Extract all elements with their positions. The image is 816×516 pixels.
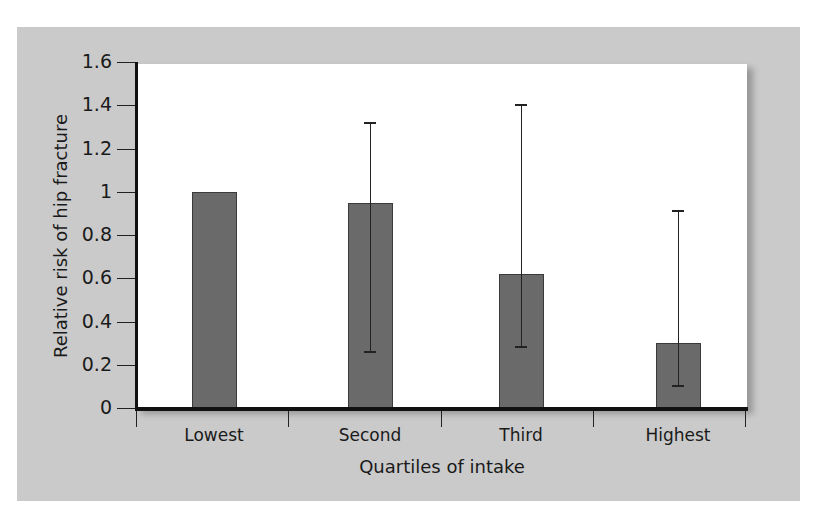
y-tick-label: 0 [52, 397, 112, 417]
y-tick [117, 408, 136, 409]
y-tick [117, 105, 136, 106]
x-axis-title: Quartiles of intake [137, 456, 747, 477]
error-bar [370, 123, 371, 352]
x-tick [441, 410, 442, 427]
y-tick [117, 365, 136, 366]
bar-lowest [192, 192, 237, 408]
x-axis-line [135, 407, 748, 411]
y-tick [117, 235, 136, 236]
error-bar [678, 211, 679, 386]
error-bar-cap [672, 210, 684, 212]
error-bar-cap [515, 346, 527, 348]
y-tick [117, 192, 136, 193]
x-tick [593, 410, 594, 427]
y-tick [117, 322, 136, 323]
x-category-label: Lowest [144, 425, 284, 445]
y-tick [117, 278, 136, 279]
y-tick [117, 62, 136, 63]
error-bar-cap [515, 104, 527, 106]
y-axis-title: Relative risk of hip fracture [50, 114, 71, 358]
x-category-label: Highest [608, 425, 748, 445]
error-bar-cap [364, 122, 376, 124]
x-category-label: Second [300, 425, 440, 445]
error-bar-cap [672, 385, 684, 387]
y-tick [117, 149, 136, 150]
y-tick-label: 1.6 [52, 51, 112, 71]
y-axis-line [135, 62, 138, 410]
x-category-label: Third [451, 425, 591, 445]
error-bar [521, 105, 522, 347]
y-tick-label: 1.4 [52, 94, 112, 114]
x-tick [288, 410, 289, 427]
error-bar-cap [364, 351, 376, 353]
x-tick [136, 410, 137, 427]
